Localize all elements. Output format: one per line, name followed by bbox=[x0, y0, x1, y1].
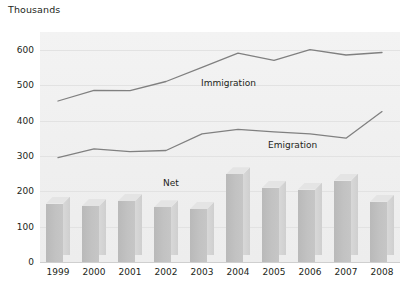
series-label-net: Net bbox=[163, 178, 179, 188]
x-axis-tick-label: 2006 bbox=[293, 267, 327, 277]
x-axis-tick-label: 2007 bbox=[329, 267, 363, 277]
y-axis-tick-label: 200 bbox=[4, 186, 34, 196]
x-axis-tick-label: 2008 bbox=[365, 267, 399, 277]
x-axis-tick-label: 2002 bbox=[149, 267, 183, 277]
x-axis-tick-label: 2001 bbox=[113, 267, 147, 277]
plot-area: ImmigrationEmigrationNet bbox=[40, 32, 400, 262]
x-axis-tick-label: 1999 bbox=[41, 267, 75, 277]
emigration-line bbox=[58, 112, 382, 158]
y-axis-tick-label: 300 bbox=[4, 151, 34, 161]
x-axis-tick-label: 2003 bbox=[185, 267, 219, 277]
y-axis-unit-label: Thousands bbox=[8, 4, 60, 15]
y-axis-tick-label: 600 bbox=[4, 45, 34, 55]
series-label-immigration: Immigration bbox=[201, 78, 256, 88]
gridline bbox=[40, 262, 400, 263]
series-label-emigration: Emigration bbox=[268, 140, 317, 150]
x-axis-tick-label: 2004 bbox=[221, 267, 255, 277]
y-axis-tick-label: 0 bbox=[4, 257, 34, 267]
y-axis-tick-label: 500 bbox=[4, 80, 34, 90]
line-series-group bbox=[40, 32, 400, 262]
y-axis-tick-label: 400 bbox=[4, 116, 34, 126]
y-axis-tick-label: 100 bbox=[4, 222, 34, 232]
immigration-line bbox=[58, 50, 382, 101]
x-axis-tick-label: 2005 bbox=[257, 267, 291, 277]
x-axis-tick-label: 2000 bbox=[77, 267, 111, 277]
immigration-emigration-net-chart: Thousands ImmigrationEmigrationNet 01002… bbox=[0, 0, 416, 284]
